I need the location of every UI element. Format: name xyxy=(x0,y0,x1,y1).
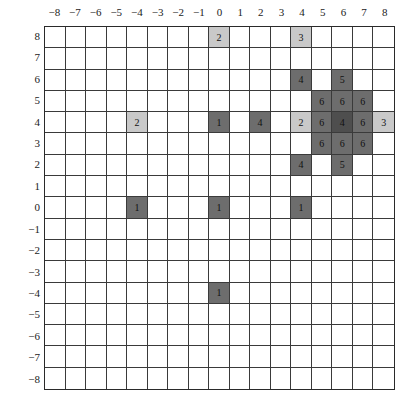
grid-cell xyxy=(209,91,230,112)
grid-cell xyxy=(86,325,107,346)
grid-cell xyxy=(209,325,230,346)
grid-cell xyxy=(312,48,333,69)
grid-cell xyxy=(271,283,292,304)
grid-cell xyxy=(373,197,394,218)
grid-cell xyxy=(168,325,189,346)
grid-cell xyxy=(291,219,312,240)
grid-cell xyxy=(168,27,189,48)
grid-cell xyxy=(189,304,210,325)
grid-cell-filled: 5 xyxy=(332,70,353,91)
grid-cell xyxy=(127,368,148,389)
grid-cell-filled: 1 xyxy=(209,112,230,133)
x-tick-label: 6 xyxy=(333,6,354,18)
grid-cell xyxy=(209,219,230,240)
grid-cell-filled: 1 xyxy=(209,197,230,218)
grid-cell xyxy=(312,368,333,389)
grid-cell xyxy=(148,304,169,325)
x-tick-label: 5 xyxy=(312,6,333,18)
grid-cell xyxy=(189,261,210,282)
grid-cell xyxy=(209,346,230,367)
grid-cell xyxy=(107,240,128,261)
grid-cell xyxy=(168,346,189,367)
grid-cell xyxy=(148,133,169,154)
grid-cell xyxy=(332,197,353,218)
grid-cell-filled: 2 xyxy=(127,112,148,133)
grid-cell xyxy=(86,133,107,154)
grid-cell xyxy=(373,346,394,367)
grid-cell xyxy=(312,27,333,48)
grid-cell xyxy=(373,219,394,240)
grid-cell xyxy=(86,176,107,197)
grid-cell xyxy=(45,112,66,133)
grid-cell xyxy=(168,155,189,176)
grid-cell xyxy=(189,368,210,389)
grid-cell xyxy=(332,261,353,282)
grid-cell xyxy=(373,176,394,197)
grid-cell xyxy=(250,368,271,389)
grid-cell xyxy=(312,240,333,261)
grid-cell xyxy=(332,219,353,240)
grid-cell xyxy=(168,261,189,282)
x-tick-label: −4 xyxy=(127,6,148,18)
grid-cell xyxy=(189,48,210,69)
grid-cell xyxy=(45,346,66,367)
grid-cell xyxy=(107,48,128,69)
y-tick-label: 8 xyxy=(10,30,40,42)
grid-cell xyxy=(291,176,312,197)
grid-cell xyxy=(373,325,394,346)
grid-cell xyxy=(230,91,251,112)
x-tick-label: 2 xyxy=(251,6,272,18)
grid-cell xyxy=(168,368,189,389)
grid-cell xyxy=(45,261,66,282)
grid-cell xyxy=(148,240,169,261)
x-tick-label: −3 xyxy=(147,6,168,18)
grid-cell xyxy=(291,346,312,367)
grid-cell xyxy=(127,48,148,69)
grid-cell xyxy=(373,70,394,91)
grid-cell xyxy=(45,27,66,48)
grid-cell-filled: 6 xyxy=(332,133,353,154)
grid-cell xyxy=(291,261,312,282)
y-tick-label: −7 xyxy=(10,351,40,363)
grid-cell xyxy=(189,325,210,346)
grid-cell xyxy=(373,304,394,325)
grid-cell-filled: 6 xyxy=(312,133,333,154)
grid-cell-filled: 1 xyxy=(291,197,312,218)
grid-cell xyxy=(107,70,128,91)
grid-cell xyxy=(45,155,66,176)
grid-cell xyxy=(230,197,251,218)
grid-cell xyxy=(127,346,148,367)
grid-cell xyxy=(373,261,394,282)
grid-cell xyxy=(66,70,87,91)
grid-cell xyxy=(209,261,230,282)
grid-cell xyxy=(189,27,210,48)
grid-cell xyxy=(189,70,210,91)
grid-cell xyxy=(332,325,353,346)
grid-cell xyxy=(373,27,394,48)
grid-cell xyxy=(209,48,230,69)
grid-cell xyxy=(230,368,251,389)
grid-cell xyxy=(230,133,251,154)
grid-cell xyxy=(45,368,66,389)
grid-cell xyxy=(353,27,374,48)
grid-cell xyxy=(291,368,312,389)
grid-cell xyxy=(168,91,189,112)
grid-cell xyxy=(312,70,333,91)
grid-cell xyxy=(127,219,148,240)
grid-cell xyxy=(168,197,189,218)
grid-cell xyxy=(66,368,87,389)
x-tick-label: −1 xyxy=(189,6,210,18)
grid-cell xyxy=(250,240,271,261)
grid-cell xyxy=(66,48,87,69)
grid-cell xyxy=(66,219,87,240)
grid-cell xyxy=(250,304,271,325)
grid-cell xyxy=(45,133,66,154)
y-tick-label: 0 xyxy=(10,201,40,213)
grid-cell-filled: 5 xyxy=(332,155,353,176)
grid-cell xyxy=(271,240,292,261)
grid-cell xyxy=(250,133,271,154)
grid-cell xyxy=(353,48,374,69)
grid-cell xyxy=(291,325,312,346)
grid-cell xyxy=(271,176,292,197)
grid-cell xyxy=(127,304,148,325)
